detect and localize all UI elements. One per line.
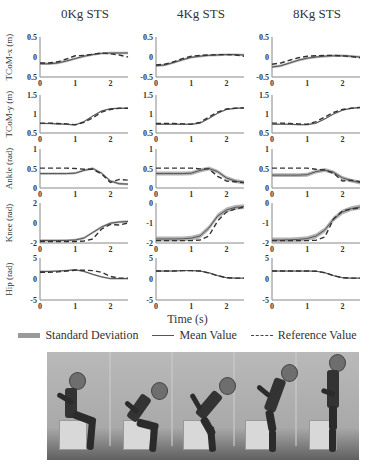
svg-text:1.5: 1.5	[143, 91, 153, 100]
subplot-0-1: 0.50-0.5012	[140, 33, 244, 88]
svg-text:1: 1	[305, 190, 309, 199]
wall-panel-seam	[109, 352, 111, 446]
legend-label-ref: Reference Value	[278, 328, 357, 343]
svg-text:0: 0	[270, 302, 274, 311]
legend-label-mean: Mean Value	[179, 328, 236, 343]
svg-text:-5: -5	[146, 296, 153, 305]
svg-text:5: 5	[265, 254, 269, 263]
subplot-4-0: 50-5012	[30, 254, 128, 311]
svg-text:1: 1	[149, 110, 153, 119]
svg-text:-5: -5	[262, 296, 269, 305]
row-label: Knee (rad)	[4, 204, 14, 243]
svg-text:0.5: 0.5	[27, 129, 37, 138]
legend-item-std: Standard Deviation	[18, 328, 138, 343]
sts-figure: 0Kg STS 4Kg STS 8Kg STS 0.500.50120.50-0…	[0, 0, 375, 470]
svg-text:2: 2	[340, 79, 344, 88]
svg-text:1.5: 1.5	[27, 91, 37, 100]
svg-text:2: 2	[108, 190, 112, 199]
ref-line-swatch	[251, 335, 273, 336]
subplot-1-2: 1.510.5012	[259, 91, 360, 144]
legend-item-ref: Reference Value	[251, 328, 357, 343]
svg-text:2: 2	[224, 135, 228, 144]
subplot-3-0: 20-2012	[30, 199, 128, 254]
svg-text:0: 0	[265, 275, 269, 284]
svg-text:-1: -1	[146, 219, 153, 228]
svg-text:0.5: 0.5	[143, 129, 153, 138]
svg-text:1: 1	[265, 110, 269, 119]
svg-text:-2: -2	[262, 239, 269, 248]
svg-text:2: 2	[340, 302, 344, 311]
svg-text:0: 0	[38, 79, 42, 88]
svg-text:-5: -5	[30, 296, 37, 305]
svg-text:0.5: 0.5	[143, 165, 153, 174]
svg-text:1: 1	[189, 245, 193, 254]
svg-text:1: 1	[33, 145, 37, 154]
subplot-0-0: 0.500.5012	[27, 33, 128, 88]
svg-text:1: 1	[189, 190, 193, 199]
svg-text:1: 1	[73, 135, 77, 144]
wall-panel-seam	[233, 352, 235, 446]
subplot-4-1: 50-5012	[146, 254, 244, 311]
svg-text:1: 1	[189, 79, 193, 88]
stool	[59, 420, 87, 450]
svg-text:0: 0	[265, 53, 269, 62]
svg-text:0.5: 0.5	[143, 33, 153, 42]
svg-text:-2: -2	[146, 239, 153, 248]
legend: Standard Deviation Mean Value Reference …	[0, 327, 375, 343]
svg-text:1.5: 1.5	[259, 91, 269, 100]
legend-item-mean: Mean Value	[152, 328, 236, 343]
subplot-4-2: 50-5012	[262, 254, 360, 311]
subplot-2-0: 10.50012	[27, 145, 128, 199]
svg-text:0: 0	[149, 199, 153, 208]
svg-text:0.5: 0.5	[259, 165, 269, 174]
svg-text:1: 1	[73, 79, 77, 88]
subplot-grid: 0.500.50120.50-0.50120.50-0.5012TCoM-x (…	[0, 0, 375, 312]
svg-text:1: 1	[73, 245, 77, 254]
svg-text:-2: -2	[30, 239, 37, 248]
svg-text:0: 0	[270, 135, 274, 144]
svg-text:2: 2	[108, 79, 112, 88]
svg-text:0: 0	[33, 184, 37, 193]
svg-text:-0.5: -0.5	[140, 73, 153, 82]
svg-text:2: 2	[108, 302, 112, 311]
svg-text:0.5: 0.5	[259, 33, 269, 42]
svg-text:0: 0	[154, 79, 158, 88]
svg-text:0: 0	[270, 190, 274, 199]
svg-text:1: 1	[305, 302, 309, 311]
svg-text:1: 1	[189, 302, 193, 311]
row-label: Hip (rad)	[4, 262, 14, 295]
svg-text:2: 2	[108, 135, 112, 144]
svg-text:2: 2	[224, 302, 228, 311]
svg-text:1: 1	[305, 135, 309, 144]
svg-text:0: 0	[154, 190, 158, 199]
wall-panel-seam	[171, 352, 173, 446]
svg-text:0: 0	[154, 245, 158, 254]
subplot-2-2: 10.50012	[259, 145, 360, 199]
subplot-2-1: 10.50012	[143, 145, 244, 199]
svg-text:-1: -1	[262, 219, 269, 228]
svg-text:0.5: 0.5	[259, 129, 269, 138]
svg-text:2: 2	[108, 245, 112, 254]
svg-text:0: 0	[154, 302, 158, 311]
row-label: TCoM-y (m)	[4, 91, 14, 138]
svg-text:2: 2	[340, 245, 344, 254]
svg-text:2: 2	[33, 199, 37, 208]
svg-text:1: 1	[265, 145, 269, 154]
svg-text:0: 0	[149, 275, 153, 284]
svg-text:0: 0	[265, 184, 269, 193]
svg-text:1: 1	[73, 302, 77, 311]
svg-text:1: 1	[149, 145, 153, 154]
svg-text:1: 1	[73, 190, 77, 199]
svg-text:1: 1	[305, 245, 309, 254]
subplot-3-2: 0-1-2012	[262, 199, 360, 254]
row-label: TCoM-x (m)	[4, 34, 14, 81]
legend-label-std: Standard Deviation	[45, 328, 138, 343]
svg-text:2: 2	[224, 79, 228, 88]
subplot-3-1: 0-1-2012	[146, 199, 244, 254]
svg-text:-0.5: -0.5	[256, 73, 269, 82]
svg-text:0.5: 0.5	[27, 73, 37, 82]
svg-text:0: 0	[38, 245, 42, 254]
row-label: Ankle (rad)	[4, 148, 14, 190]
svg-text:0.5: 0.5	[27, 33, 37, 42]
svg-text:2: 2	[340, 135, 344, 144]
